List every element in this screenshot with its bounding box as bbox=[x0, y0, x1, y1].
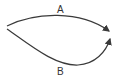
path-a-curve bbox=[7, 15, 109, 31]
path-b-label: B bbox=[57, 67, 64, 77]
path-b-curve bbox=[7, 29, 110, 65]
path-a-label: A bbox=[57, 5, 64, 15]
